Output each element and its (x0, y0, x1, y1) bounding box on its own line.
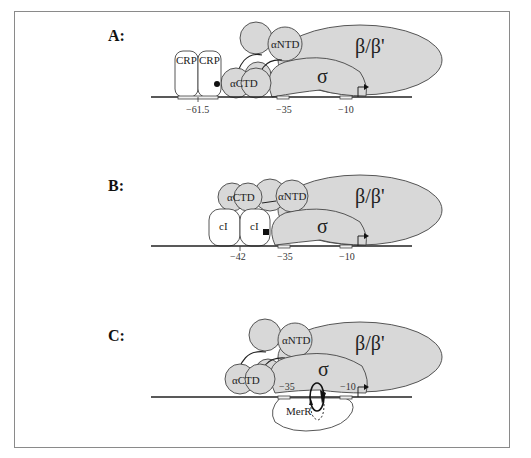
minus10-element (340, 396, 352, 399)
sigma-label: σ (318, 358, 329, 380)
minus35-element (278, 396, 290, 399)
ci-label: cI (250, 220, 259, 232)
minus10-element (340, 96, 352, 99)
panel-a-label: A: (108, 27, 125, 44)
position-label: −61.5 (186, 104, 209, 115)
alpha-ntd-label: αNTD (271, 38, 299, 50)
alpha-ntd-label: αNTD (278, 190, 306, 202)
minus35-element (278, 245, 290, 248)
beta-label: β/β' (355, 35, 385, 58)
ci-label: cI (219, 220, 228, 232)
panel-a: A: αNTD σ β/β' αCTD CRP CRP −61.5 −35 (108, 22, 442, 115)
alpha-ctd-label: αCTD (232, 374, 260, 386)
alpha-ntd-back (249, 319, 281, 351)
sigma-label: σ (317, 215, 328, 237)
panel-c: C: αNTD σ β/β' αCTD −35 −10 MerR (108, 319, 442, 431)
beta-label: β/β' (355, 185, 385, 208)
activating-region-dot (214, 81, 220, 87)
activating-region-square (263, 229, 269, 235)
position-label: −35 (277, 251, 293, 262)
position-label: −10 (338, 104, 354, 115)
crp-label: CRP (199, 54, 220, 66)
panel-b: B: αNTD αCTD σ β/β' cI cI −42 −35 −10 (108, 175, 442, 262)
minus35-element (277, 96, 289, 99)
alpha-ctd-label: αCTD (227, 191, 255, 203)
panel-b-label: B: (108, 177, 124, 194)
position-label: −10 (339, 251, 355, 262)
sigma-label: σ (317, 65, 328, 87)
alpha-ntd-label: αNTD (282, 334, 310, 346)
alpha-ctd-label: αCTD (230, 77, 258, 89)
merr-label: MerR (286, 405, 312, 417)
panel-c-label: C: (108, 327, 125, 344)
position-label: −35 (279, 381, 295, 392)
position-label: −10 (340, 381, 356, 392)
position-label: −35 (276, 104, 292, 115)
alpha-ntd-back (240, 22, 272, 54)
merr-protein (272, 398, 353, 431)
position-label: −42 (230, 251, 246, 262)
minus10-element (340, 245, 352, 248)
beta-label: β/β' (355, 332, 385, 355)
crp-label: CRP (176, 54, 197, 66)
promoter-diagram: A: αNTD σ β/β' αCTD CRP CRP −61.5 −35 (0, 0, 531, 458)
